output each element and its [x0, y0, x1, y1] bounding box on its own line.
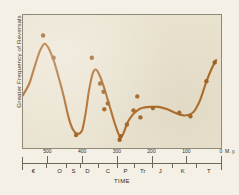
period-divider-tick	[98, 163, 99, 168]
data-point	[177, 111, 181, 115]
data-point	[41, 33, 45, 37]
x-tick-mark	[117, 156, 118, 163]
chart-figure: Greater Frequency of Reversals 500400300…	[0, 0, 239, 195]
period-divider-tick	[196, 163, 197, 168]
x-axis-line	[22, 163, 222, 164]
x-axis-unit-label: M. y.	[225, 148, 235, 154]
period-label-5: C	[106, 168, 110, 174]
data-point	[51, 56, 55, 60]
y-axis-label: Greater Frequency of Reversals	[15, 0, 22, 132]
reversal-frequency-plot	[23, 15, 221, 148]
period-label-10: T	[207, 168, 211, 174]
x-tick-label: 300	[113, 148, 121, 154]
period-label-6: P	[123, 168, 127, 174]
x-tick-mark	[47, 156, 48, 163]
plot-area	[22, 14, 222, 149]
x-tick-label: 0	[220, 148, 223, 154]
period-divider-tick	[152, 163, 153, 168]
period-label-2: O	[57, 168, 62, 174]
x-axis: 5004003002001000M. y. €OSDCPTrJKT TIME	[22, 149, 222, 179]
data-point	[135, 94, 139, 98]
x-tick-mark	[221, 156, 222, 163]
period-label-1: €	[32, 168, 35, 174]
x-tick-mark	[186, 156, 187, 163]
data-point	[188, 114, 192, 118]
x-tick-mark	[82, 156, 83, 163]
data-point	[74, 133, 78, 137]
data-point	[151, 106, 155, 110]
x-tick-label: 100	[182, 148, 190, 154]
x-tick-label: 500	[43, 148, 51, 154]
x-tick-mark	[152, 156, 153, 163]
data-point	[204, 79, 208, 83]
data-point	[131, 108, 135, 112]
period-divider-tick	[134, 163, 135, 168]
x-axis-left-cap	[22, 157, 23, 170]
period-label-8: J	[159, 168, 162, 174]
period-label-4: D	[85, 168, 89, 174]
x-tick-label: 200	[147, 148, 155, 154]
data-point	[138, 115, 142, 119]
data-point	[118, 134, 122, 138]
data-point	[90, 56, 94, 60]
x-tick-label: 400	[78, 148, 86, 154]
period-label-9: K	[181, 168, 185, 174]
period-label-3: S	[71, 168, 75, 174]
period-divider-tick	[172, 163, 173, 168]
period-label-7: Tr	[140, 168, 145, 174]
data-point	[98, 81, 102, 85]
data-point	[101, 90, 105, 94]
period-divider-tick	[80, 163, 81, 168]
period-divider-tick	[117, 163, 118, 168]
x-axis-title: TIME	[22, 178, 222, 184]
data-point	[213, 60, 217, 64]
data-point	[106, 101, 110, 105]
data-point	[102, 107, 106, 111]
period-divider-tick	[46, 163, 47, 168]
period-divider-tick	[66, 163, 67, 168]
data-point	[125, 122, 129, 126]
